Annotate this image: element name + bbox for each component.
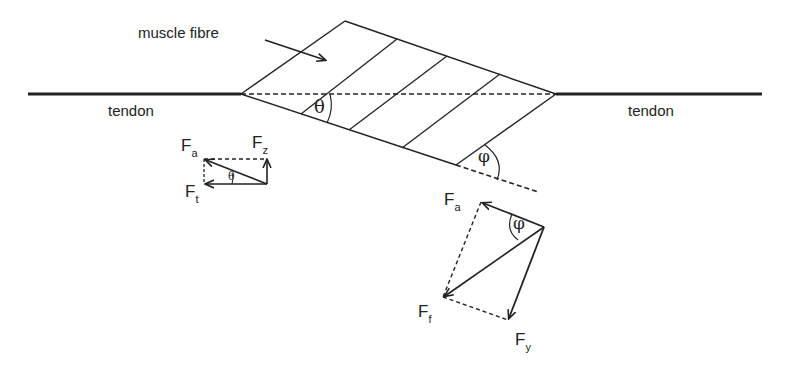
tendon-right-label: tendon (628, 102, 674, 119)
large-fa-label: Fa (444, 190, 461, 211)
muscle-fibre-pointer-arrow (265, 40, 325, 60)
small-force-diagram (204, 159, 267, 184)
pennate-muscle-diagram (0, 0, 788, 368)
tendon-left-label: tendon (108, 102, 154, 119)
large-force-diagram (443, 202, 544, 320)
theta-arc (327, 94, 331, 123)
large-ff-label: Ff (418, 302, 431, 323)
small-ft-label: Ft (185, 182, 198, 203)
theta-label: θ (314, 96, 325, 117)
small-fa-label: Fa (181, 136, 198, 157)
small-theta-label: θ (228, 170, 235, 183)
phi-label: φ (478, 146, 490, 166)
large-fy-label: Fy (515, 330, 531, 351)
large-phi-label: φ (513, 213, 525, 233)
small-fz-label: Fz (252, 133, 268, 154)
muscle-fibre-label: muscle fibre (138, 24, 219, 41)
